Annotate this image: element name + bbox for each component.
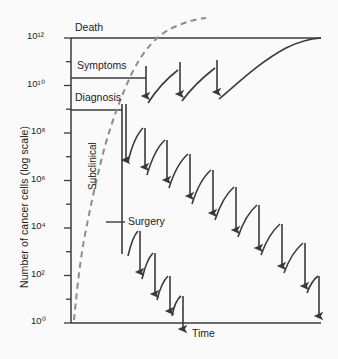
series-complete-response-surgery: [122, 104, 126, 254]
series-complete-response-cycles: [128, 231, 183, 329]
y-tick-label-4: 10⁴: [31, 221, 46, 231]
figure-container: Number of cancer cells (log scale) 10¹² …: [0, 0, 338, 359]
threshold-label-diagnosis: Diagnosis: [75, 92, 121, 103]
y-tick-label-8: 10⁸: [31, 126, 46, 136]
axis-lines: [71, 38, 321, 323]
y-tick-label-12: 10¹²: [27, 31, 44, 41]
chart-canvas: [0, 0, 338, 359]
x-axis-title: Time: [192, 328, 215, 339]
annotation-label-surgery: Surgery: [128, 216, 165, 227]
region-label-subclinical: Subclinical: [88, 142, 98, 190]
series-relapse-regrowth: [146, 38, 321, 103]
y-axis-ticks: [64, 38, 71, 323]
threshold-label-symptoms: Symptoms: [77, 60, 127, 71]
y-tick-label-2: 10²: [31, 269, 45, 279]
y-tick-label-0: 10⁰: [31, 316, 46, 326]
y-tick-label-6: 10⁶: [31, 174, 45, 184]
y-axis-title: Number of cancer cells (log scale): [19, 126, 30, 288]
threshold-label-death: Death: [75, 22, 103, 33]
y-tick-label-10: 10¹⁰: [27, 79, 45, 89]
